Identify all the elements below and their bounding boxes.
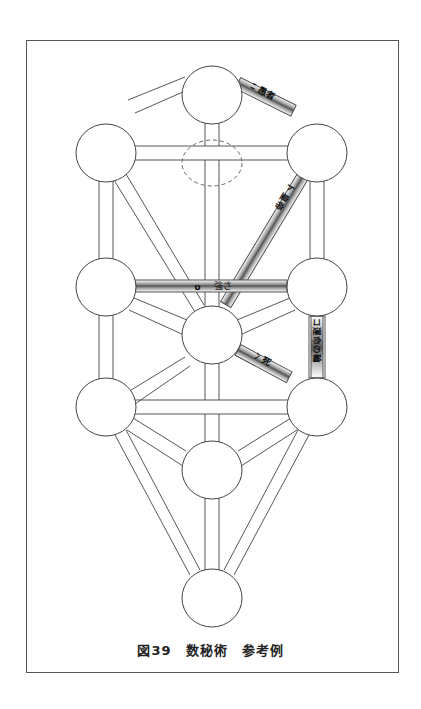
label-geburah-chesed-letter: ט [194, 281, 201, 292]
path-kether-tiphareth [205, 95, 219, 335]
sephira-yesod [182, 441, 242, 499]
path-geburah-tiphareth-b [129, 310, 184, 335]
path-chesed-tiphareth-b [240, 310, 295, 335]
sephira-malkuth [182, 569, 242, 627]
sephira-chesed [287, 258, 347, 316]
figure-caption: 図39 数秘術 参考例 [0, 640, 421, 659]
sephira-tiphareth [182, 306, 242, 364]
tree-of-life-diagram: ﾆ 愚者 ト 皇帝 ט 強さ コ運命の輪 ﾝ 死 [0, 0, 421, 709]
label-geburah-chesed-word: 強さ [214, 280, 232, 291]
path-hod-malkuth-a [115, 435, 190, 575]
path-kether-binah-a [128, 77, 185, 100]
sephira-geburah [76, 258, 136, 316]
sephira-hod [76, 378, 136, 436]
sephira-netzach [287, 378, 347, 436]
path-hod-tiphareth-a [128, 357, 185, 392]
path-hod-yesod-a [133, 418, 186, 451]
sephira-binah [76, 124, 136, 182]
sephira-chokmah [287, 124, 347, 182]
path-netzach-yesod-a [238, 418, 291, 451]
path-geburah-chesed [135, 280, 287, 292]
path-geburah-tiphareth-a [134, 298, 187, 320]
path-netzach-malkuth-a [234, 435, 309, 575]
label-chesed-netzach: コ運命の輪 [312, 318, 322, 363]
path-hod-tiphareth-b [135, 366, 190, 404]
path-binah-chokmah [106, 146, 317, 160]
path-chesed-tiphareth-a [237, 298, 290, 320]
sephira-kether [182, 66, 242, 124]
